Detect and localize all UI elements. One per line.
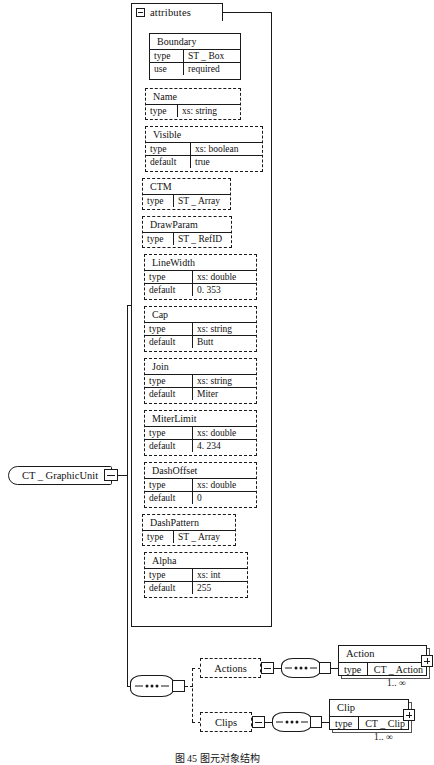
element-row-value: CT _ Clip	[359, 717, 408, 730]
attribute-row-key: type	[145, 271, 193, 283]
attribute-name: DashPattern	[143, 515, 235, 531]
attribute-box-name[interactable]: Name type xs: string	[145, 88, 241, 120]
root-sequence-toggle[interactable]	[172, 680, 185, 692]
element-row-value: CT _ Action	[368, 663, 426, 676]
sequence-node-icon	[146, 685, 159, 688]
attributes-group-tab[interactable]: attributes	[131, 3, 223, 21]
attribute-row-value: true	[191, 156, 262, 168]
element-box-actions[interactable]: Actions	[200, 658, 261, 678]
attribute-row: default 0	[145, 491, 256, 504]
element-box-action[interactable]: Action type CT _ Action	[338, 645, 427, 676]
attribute-row: type ST _ Box	[150, 50, 240, 62]
attribute-box-linewidth[interactable]: LineWidth type xs: double default 0. 353	[144, 254, 257, 300]
element-row-key: type	[339, 663, 368, 676]
attribute-box-ctm[interactable]: CTM type ST _ Array	[142, 178, 231, 210]
clips-toggle[interactable]	[252, 716, 265, 728]
attribute-row-value: xs: string	[178, 105, 240, 117]
attribute-name: Boundary	[150, 34, 240, 50]
attribute-box-cap[interactable]: Cap type xs: string default Butt	[144, 306, 257, 352]
attribute-row-key: type	[143, 195, 174, 207]
attribute-row-value: ST _ Array	[174, 195, 230, 207]
element-box-main: Action type CT _ Action	[338, 645, 427, 676]
sequence-line-right	[301, 722, 308, 723]
connector-branch-bus	[192, 668, 193, 722]
attribute-row-value: Miter	[193, 388, 256, 400]
attribute-row-value: xs: double	[193, 479, 256, 491]
attribute-row: type xs: string	[145, 323, 256, 335]
clips-sequence-toggle[interactable]	[310, 716, 322, 728]
attribute-row-value: Butt	[193, 336, 256, 348]
attribute-row-key: default	[145, 284, 193, 296]
sequence-node-icon	[286, 721, 299, 724]
attribute-row-key: type	[150, 50, 184, 62]
element-row: type CT _ Clip	[330, 717, 408, 730]
attribute-row-value: xs: double	[193, 271, 256, 283]
attribute-row: type xs: double	[145, 271, 256, 283]
minus-box-icon	[255, 722, 262, 723]
attribute-row: type xs: int	[145, 569, 247, 581]
actions-sequence-toggle[interactable]	[319, 662, 331, 674]
attribute-row: type xs: double	[145, 427, 256, 439]
minus-box-icon	[264, 668, 271, 669]
attribute-row: type xs: string	[145, 375, 256, 387]
attribute-row: default 255	[145, 581, 247, 594]
attribute-name: Join	[145, 359, 256, 375]
clip-expand-toggle[interactable]	[403, 709, 415, 721]
minus-box-icon[interactable]	[136, 8, 145, 17]
minus-box-icon	[107, 475, 115, 476]
plus-box-icon	[409, 712, 410, 718]
element-box-clips[interactable]: Clips	[200, 712, 252, 732]
attribute-box-drawparam[interactable]: DrawParam type ST _ RefID	[142, 216, 232, 248]
action-expand-toggle[interactable]	[421, 655, 433, 667]
attribute-name: Name	[146, 89, 240, 105]
root-type-label: CT _ GraphicUnit	[22, 470, 98, 481]
element-box-actions-label: Actions	[214, 663, 247, 674]
attribute-box-boundary[interactable]: Boundary type ST _ Box use required	[149, 33, 241, 80]
attribute-row-value: 255	[193, 582, 247, 594]
attribute-box-miterlimit[interactable]: MiterLimit type xs: double default 4. 23…	[144, 410, 257, 456]
attribute-row: default true	[146, 155, 262, 168]
figure-caption: 图 45 图元对象结构	[0, 750, 434, 765]
attribute-box-alpha[interactable]: Alpha type xs: int default 255	[144, 552, 248, 598]
attribute-box-dashoffset[interactable]: DashOffset type xs: double default 0	[144, 462, 257, 508]
attribute-name: LineWidth	[145, 255, 256, 271]
attribute-box-join[interactable]: Join type xs: string default Miter	[144, 358, 257, 404]
attribute-row: type ST _ RefID	[143, 233, 231, 245]
attribute-box-visible[interactable]: Visible type xs: boolean default true	[145, 126, 263, 172]
attribute-row-value: 4. 234	[193, 440, 256, 452]
attribute-row-value: required	[184, 63, 240, 75]
sequence-line-left	[135, 686, 143, 687]
schema-diagram-canvas: attributes Boundary type ST _ Box use re…	[0, 0, 434, 765]
attribute-row: default 0. 353	[145, 283, 256, 296]
root-type-node[interactable]: CT _ GraphicUnit	[8, 466, 112, 485]
sequence-line-left	[285, 668, 292, 669]
actions-sequence-node[interactable]	[281, 658, 321, 678]
plus-box-icon	[427, 658, 428, 664]
attribute-row-value: ST _ Array	[174, 531, 235, 543]
attribute-name: Cap	[145, 307, 256, 323]
attribute-row-key: type	[145, 375, 193, 387]
sequence-node-icon	[295, 667, 308, 670]
attribute-row-key: type	[145, 569, 193, 581]
attribute-row-key: default	[145, 440, 193, 452]
attribute-box-dashpattern[interactable]: DashPattern type ST _ Array	[142, 514, 236, 546]
element-box-clip[interactable]: Clip type CT _ Clip	[329, 699, 409, 730]
attribute-row-value: xs: int	[193, 569, 247, 581]
element-row-key: type	[330, 717, 359, 730]
attribute-row-value: 0	[193, 492, 256, 504]
attribute-row-key: type	[145, 479, 193, 491]
attribute-row-key: default	[145, 492, 193, 504]
root-sequence-node[interactable]	[130, 675, 174, 697]
cardinality-action: 1.. ∞	[387, 678, 406, 688]
sequence-line-right	[161, 686, 169, 687]
root-node-toggle[interactable]	[104, 469, 118, 481]
clips-sequence-node[interactable]	[272, 712, 312, 732]
cardinality-clip: 1.. ∞	[374, 732, 393, 742]
attribute-name: DashOffset	[145, 463, 256, 479]
connector-trunk-vertical	[127, 305, 128, 686]
attribute-row-value: xs: string	[193, 375, 256, 387]
attribute-row-key: use	[150, 63, 184, 75]
attribute-row-value: 0. 353	[193, 284, 256, 296]
attribute-row: type ST _ Array	[143, 195, 230, 207]
actions-toggle[interactable]	[261, 662, 274, 674]
